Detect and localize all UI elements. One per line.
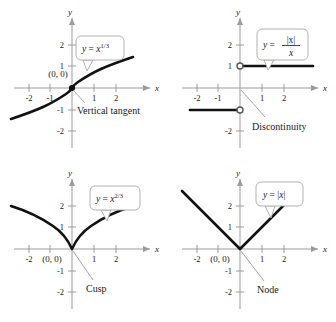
vertical-tangent-leader-line bbox=[73, 90, 85, 103]
y-tick-label--2: -2 bbox=[225, 126, 232, 136]
y-axis-arrowhead bbox=[69, 18, 75, 25]
x-tick-label--2: -2 bbox=[25, 93, 32, 103]
chart-panel-vertical-tangent: -2 -1 1 2 2 1 -1 -2 x y (0, 0) Vertical … bbox=[0, 0, 168, 161]
x-axis-arrowhead bbox=[143, 85, 150, 91]
equation-lhs-sign-function: y = bbox=[262, 40, 275, 50]
chart-svg-vertical-tangent: -2 -1 1 2 2 1 -1 -2 x y (0, 0) Vertical … bbox=[0, 0, 168, 161]
x-tick-label-2: 2 bbox=[282, 254, 286, 264]
y-tick-label-1: 1 bbox=[228, 61, 232, 71]
equation-callout-absolute-value: y = |x| bbox=[256, 182, 303, 218]
y-tick-label--1: -1 bbox=[57, 266, 64, 276]
y-tick-label--1: -1 bbox=[225, 266, 232, 276]
x-tick-label-2: 2 bbox=[282, 93, 286, 103]
open-dot-lower bbox=[237, 107, 243, 113]
equation-callout-cube-root: y = x1/3 bbox=[76, 36, 124, 71]
equation-label-absolute-value: y = |x| bbox=[262, 190, 285, 200]
chart-panel-cusp: -2 1 2 2 1 -1 -2 x y (0, 0) Cusp y = x2/… bbox=[0, 161, 168, 322]
x-tick-label--2: -2 bbox=[193, 93, 200, 103]
y-tick-label-1: 1 bbox=[228, 222, 232, 232]
y-axis-label: y bbox=[235, 168, 240, 178]
origin-point-marker bbox=[69, 85, 75, 91]
x-tick-label--2: -2 bbox=[25, 254, 32, 264]
x-axis-arrowhead bbox=[143, 246, 150, 252]
chart-svg-discontinuity: -2 -1 1 2 2 1 -2 x y Discontinuity y = |… bbox=[168, 0, 336, 161]
cusp-annotation: Cusp bbox=[86, 283, 107, 294]
x-tick-label-2: 2 bbox=[114, 254, 118, 264]
y-axis-label: y bbox=[67, 7, 72, 17]
y-tick-label--1: -1 bbox=[57, 105, 64, 115]
y-axis-label: y bbox=[235, 7, 240, 17]
y-tick-label-2: 2 bbox=[228, 201, 232, 211]
x-axis-arrowhead bbox=[311, 85, 318, 91]
x-axis-label: x bbox=[154, 244, 159, 254]
open-dot-upper bbox=[237, 63, 243, 69]
x-axis-arrowhead bbox=[311, 246, 318, 252]
x-tick-label-1: 1 bbox=[92, 254, 96, 264]
x-tick-label-1: 1 bbox=[260, 254, 264, 264]
origin-coordinate-label: (0, 0) bbox=[210, 254, 230, 264]
chart-panel-node: -2 1 2 2 1 -1 -2 x y (0, 0) Node y = |x| bbox=[168, 161, 336, 322]
origin-coordinate-label: (0, 0) bbox=[42, 254, 62, 264]
origin-coordinate-label: (0, 0) bbox=[48, 69, 68, 79]
y-tick-label--2: -2 bbox=[225, 287, 232, 297]
y-tick-label-2: 2 bbox=[228, 40, 232, 50]
chart-panel-discontinuity: -2 -1 1 2 2 1 -2 x y Discontinuity y = |… bbox=[168, 0, 336, 161]
equation-callout-sign-function: y = |x| x bbox=[257, 29, 308, 70]
y-tick-label--2: -2 bbox=[57, 287, 64, 297]
y-axis-label: y bbox=[67, 168, 72, 178]
callout-tail bbox=[83, 60, 93, 71]
y-axis-arrowhead bbox=[237, 18, 243, 25]
chart-svg-node: -2 1 2 2 1 -1 -2 x y (0, 0) Node y = |x| bbox=[168, 161, 336, 322]
cusp-leader-line bbox=[73, 251, 93, 280]
x-tick-label--2: -2 bbox=[193, 254, 200, 264]
x-tick-label-1: 1 bbox=[92, 93, 96, 103]
equation-numerator-sign-function: |x| bbox=[287, 35, 296, 45]
x-tick-label-1: 1 bbox=[260, 93, 264, 103]
equation-callout-two-thirds: y = x2/3 bbox=[90, 186, 140, 221]
x-axis-label: x bbox=[154, 83, 159, 93]
y-tick-label--2: -2 bbox=[57, 126, 64, 136]
y-axis-arrowhead bbox=[69, 179, 75, 186]
y-tick-label-2: 2 bbox=[60, 40, 64, 50]
x-axis-label: x bbox=[322, 83, 327, 93]
vertical-tangent-annotation: Vertical tangent bbox=[77, 105, 140, 116]
x-tick-label--1: -1 bbox=[214, 93, 221, 103]
y-tick-label-2: 2 bbox=[60, 201, 64, 211]
x-axis-label: x bbox=[322, 244, 327, 254]
x-tick-label-2: 2 bbox=[114, 93, 118, 103]
y-axis-arrowhead bbox=[237, 179, 243, 186]
chart-svg-cusp: -2 1 2 2 1 -1 -2 x y (0, 0) Cusp y = x2/… bbox=[0, 161, 168, 322]
equation-denominator-sign-function: x bbox=[288, 48, 294, 58]
discontinuity-annotation: Discontinuity bbox=[252, 121, 306, 132]
four-panel-calculus-figure: -2 -1 1 2 2 1 -1 -2 x y (0, 0) Vertical … bbox=[0, 0, 336, 322]
node-annotation: Node bbox=[257, 284, 279, 295]
